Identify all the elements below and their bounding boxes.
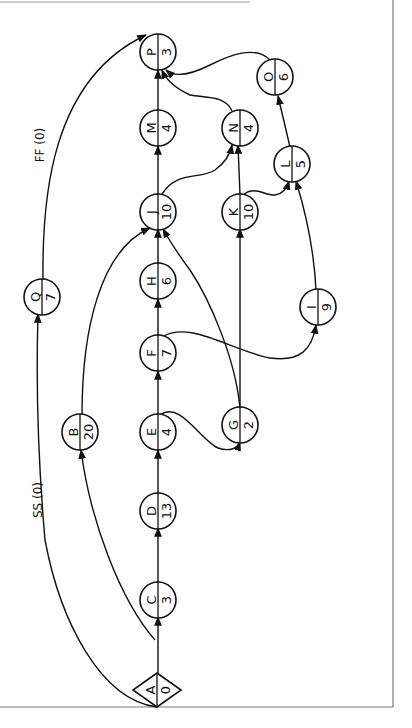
edge-O-P [166,52,270,74]
node-l: L5 [274,146,310,182]
edge-I-L [296,181,316,290]
node-label: M [144,122,159,133]
node-duration: 20 [81,424,96,441]
node-duration: 6 [276,73,291,81]
node-duration: 6 [159,277,174,285]
node-label: F [144,349,159,356]
node-duration: 7 [159,349,174,357]
node-c: C3 [140,582,176,618]
edge-label-ff: FF (0) [33,128,47,163]
node-label: B [66,428,81,437]
node-label: J [144,210,159,215]
nodes: A0C3D13E4B20F7G2H6Q7I9J10K10L5M4N4O6P3 [24,34,336,707]
node-h: H6 [140,263,176,299]
node-e: E4 [140,414,176,450]
node-j: J10 [140,194,176,230]
node-duration: 7 [43,293,58,301]
edge-F-I [162,325,316,359]
node-m: M4 [140,110,176,146]
node-p: P3 [140,34,176,70]
node-label: H [144,276,159,286]
node-duration: 4 [241,124,256,132]
node-duration: 3 [159,48,174,56]
node-label: I [304,305,319,309]
node-o: O6 [257,59,293,95]
node-label: E [144,428,159,436]
node-duration: 4 [159,428,174,436]
node-i: I9 [300,289,336,325]
node-label: L [278,160,293,168]
node-label: O [261,72,276,82]
edge-K-N [238,145,240,195]
node-n: N4 [222,110,258,146]
node-k: K10 [222,194,258,230]
node-duration: 5 [293,160,308,168]
edge-N-P [162,70,232,111]
node-a: A0 [133,673,181,707]
node-label: A [143,685,158,694]
precedence-network-diagram: SS (0) FF (0) A0C3D13E4B20F7G2H6Q7I9J10K… [0,0,412,728]
edge-J-N [161,145,232,196]
edge-label-ss: SS (0) [31,482,45,518]
node-duration: 0 [158,686,173,694]
node-f: F7 [140,335,176,371]
node-duration: 10 [159,204,174,221]
node-d: D13 [140,493,176,529]
node-b: B20 [62,414,98,450]
node-duration: 4 [159,124,174,132]
edge-Q-P [43,35,146,280]
node-duration: 2 [241,421,256,429]
edge-K-L [243,181,289,195]
node-duration: 9 [319,303,334,311]
node-duration: 10 [241,204,256,221]
node-label: Q [28,292,43,302]
node-duration: 3 [159,596,174,604]
edge-G-J [163,229,240,409]
node-g: G2 [222,407,258,443]
edge-A-Q [37,314,157,707]
node-label: D [144,506,159,516]
edge-L-O [278,96,290,147]
edges [37,35,316,707]
node-q: Q7 [24,279,60,315]
node-duration: 13 [159,503,174,520]
node-label: G [226,420,241,430]
node-label: P [144,48,159,56]
node-label: K [226,207,241,216]
node-label: C [144,595,159,604]
node-label: N [226,123,241,133]
edge-B-J [82,228,150,415]
